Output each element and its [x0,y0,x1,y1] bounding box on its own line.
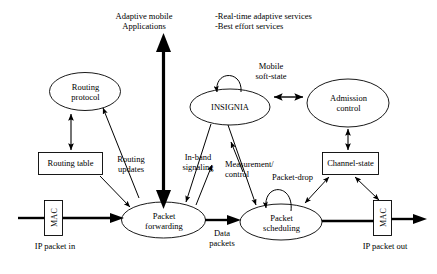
node-packet-scheduling-label: Packet scheduling [243,213,320,233]
node-routing-table-label: Routing table [39,158,102,168]
insignia-architecture-diagram: Adaptive mobile Applications -Real-time … [0,0,437,274]
node-admission-control-label: Admission control [310,93,387,113]
edge-packet-forwarding-packet-scheduling [205,215,241,225]
io-label-ip-packet-in: IP packet in [23,241,87,251]
node-mac-right-label: MAC [379,204,388,232]
edge-label-in-band-signaling: In-band signaling [171,152,225,172]
edge-label-packet-drop: Packet-drop [272,172,332,182]
edge-applications-packet-forwarding [156,33,171,209]
edge-label-routing-updates: Routing updates [105,154,157,174]
node-insignia-label: INSIGNIA [192,102,268,112]
edge-mac-left-packet-forwarding [63,213,125,223]
node-mac-left-label: MAC [50,204,59,232]
page-title-adaptive-mobile-applications: Adaptive mobile Applications [96,11,192,31]
edge-routing-table-packet-forwarding [100,176,130,207]
services-list: -Real-time adaptive services -Best effor… [215,11,375,31]
edge-label-mobile-soft-state: Mobile soft-state [240,61,302,81]
node-packet-forwarding-label: Packet forwarding [126,211,202,231]
edge-mac-right-ip-packet-out [392,214,428,224]
io-label-ip-packet-out: IP packet out [350,241,420,251]
node-channel-state-label: Channel-state [323,158,378,168]
node-routing-protocol-label: Routing protocol [50,82,121,102]
edge-label-data-packets: Data packets [202,228,242,248]
edge-channel-state-mac-right [355,177,379,200]
